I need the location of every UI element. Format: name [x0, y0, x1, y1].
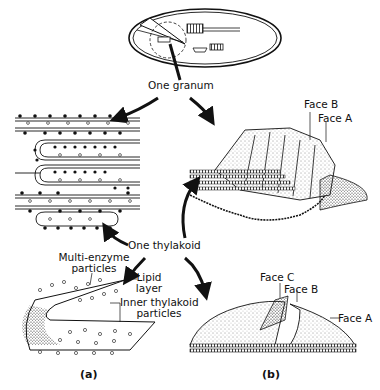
- label-one-thylakoid: One thylakoid: [128, 240, 201, 251]
- label-inner-thylakoid-particles: Inner thylakoid particles: [120, 297, 198, 319]
- arrow-to-3d-granum: [190, 98, 210, 118]
- label-one-granum: One granum: [148, 80, 214, 91]
- chloroplast-overview: [129, 9, 281, 80]
- label-multi-enzyme-line2: particles: [58, 263, 130, 274]
- arrow-to-stack-thylakoid: [107, 230, 128, 245]
- label-granum-face-a: Face A: [318, 113, 352, 124]
- label-lipid-layer: Lipid layer: [134, 272, 164, 294]
- label-thylakoid-face-b: Face B: [284, 284, 318, 295]
- diagram-canvas: [0, 0, 380, 390]
- label-inner-line2: particles: [120, 308, 198, 319]
- label-granum-face-b: Face B: [304, 99, 338, 110]
- label-multi-enzyme-particles: Multi-enzyme particles: [58, 252, 130, 274]
- label-thylakoid-face-c: Face C: [260, 272, 294, 283]
- label-thylakoid-face-a: Face A: [338, 313, 372, 324]
- panel-label-a: (a): [80, 369, 97, 380]
- arrow-to-fracture: [185, 258, 205, 292]
- label-lipid-line2: layer: [134, 283, 164, 294]
- arrow-to-3d-thylakoid: [183, 183, 195, 238]
- thylakoid-fracture: [190, 283, 356, 352]
- panel-label-b: (b): [262, 369, 280, 380]
- granum-3d-block: [190, 112, 367, 220]
